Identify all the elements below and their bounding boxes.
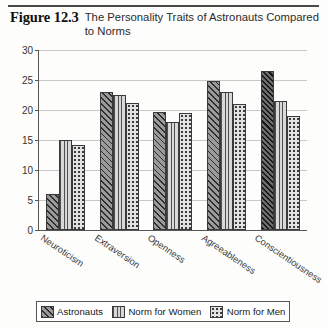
legend-item: Norm for Men [210, 306, 285, 318]
figure-container: Figure 12.3 The Personality Traits of As… [0, 0, 327, 329]
x-axis-label: Openness [146, 232, 188, 265]
legend-label: Astronauts [57, 306, 103, 317]
bar-group [253, 50, 307, 230]
bar [166, 122, 179, 230]
x-axis-label: Extraversion [92, 232, 141, 270]
plot-area: 051015202530 [38, 50, 307, 231]
bar [46, 194, 59, 230]
legend-item: Norm for Women [112, 306, 201, 318]
bar [113, 95, 126, 230]
bar [59, 140, 72, 230]
bar-group [146, 50, 200, 230]
bar [261, 71, 274, 230]
bar [126, 103, 139, 230]
bar-group [200, 50, 254, 230]
header-rule [8, 5, 319, 7]
figure-caption: Figure 12.3 The Personality Traits of As… [10, 10, 320, 38]
bar [274, 101, 287, 230]
bar [179, 113, 192, 230]
y-axis-tick-label: 15 [22, 135, 33, 146]
bar [100, 92, 113, 230]
y-axis-tick-label: 0 [27, 225, 33, 236]
y-axis-tick-label: 5 [27, 195, 33, 206]
bar-groups [39, 50, 307, 230]
y-axis-tick-label: 30 [22, 45, 33, 56]
legend-label: Norm for Women [128, 306, 201, 317]
bar [287, 116, 300, 230]
diagonal-hatch-icon [41, 306, 54, 318]
bar [72, 145, 85, 230]
bar [153, 112, 166, 230]
figure-title: The Personality Traits of Astronauts Com… [85, 10, 320, 38]
bar-group [93, 50, 147, 230]
x-axis-label: Neuroticism [39, 232, 86, 269]
figure-number: Figure 12.3 [10, 10, 79, 25]
chart-legend: AstronautsNorm for WomenNorm for Men [36, 301, 290, 322]
legend-label: Norm for Men [227, 306, 286, 317]
bar [220, 92, 233, 230]
x-axis-label: Agreeableness [200, 232, 258, 276]
y-axis-tick-label: 10 [22, 165, 33, 176]
bar-group [39, 50, 93, 230]
dots-icon [210, 306, 223, 318]
y-axis-tick-mark [35, 230, 39, 231]
y-axis-tick-label: 25 [22, 75, 33, 86]
x-axis-label: Conscientiousness [253, 232, 324, 285]
bar [207, 81, 220, 230]
x-axis-labels: NeuroticismExtraversionOpennessAgreeable… [38, 232, 306, 294]
legend-item: Astronauts [41, 306, 103, 318]
y-axis-tick-label: 20 [22, 105, 33, 116]
vertical-lines-icon [112, 306, 125, 318]
bar [233, 104, 246, 230]
